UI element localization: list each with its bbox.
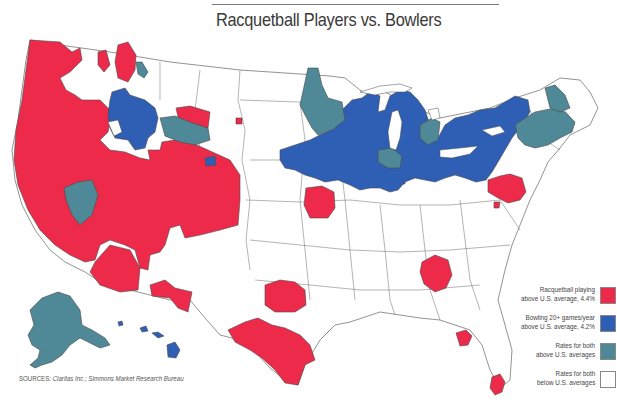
- legend-label-line2: above U.S. averages: [536, 350, 595, 359]
- legend-swatch-blue: [600, 315, 616, 332]
- legend-item-both-above: Rates for both above U.S. averages: [500, 339, 617, 365]
- source-text: Claritas Inc.; Simmons Market Research B…: [53, 375, 184, 382]
- legend-label-line2: above U.S. average, 4.2%: [521, 322, 595, 331]
- source-credit: SOURCES: Claritas Inc.; Simmons Market R…: [19, 375, 184, 382]
- legend-label-line2: below U.S. averages: [537, 378, 595, 387]
- legend-label-line1: Rates for both: [537, 369, 595, 378]
- legend-swatch-white: [600, 371, 616, 388]
- legend-swatch-teal: [600, 343, 616, 360]
- legend-label-line2: above U.S. average, 4.4%: [521, 294, 595, 303]
- legend-item-bowling: Bowling 20+ games/year above U.S. averag…: [500, 311, 617, 337]
- legend-label-line1: Racquetball playing: [521, 285, 595, 294]
- legend-label-line1: Rates for both: [536, 341, 595, 350]
- source-label: SOURCES:: [19, 375, 51, 382]
- legend-swatch-red: [600, 287, 616, 304]
- legend-item-racquetball: Racquetball playing above U.S. average, …: [500, 283, 617, 309]
- legend-item-both-below: Rates for both below U.S. averages: [500, 367, 617, 393]
- legend-label-line1: Bowling 20+ games/year: [521, 313, 595, 322]
